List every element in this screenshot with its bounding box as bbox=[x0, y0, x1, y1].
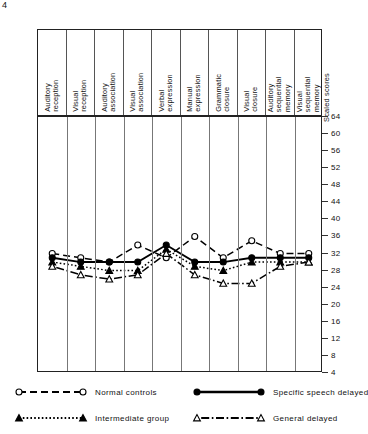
y-axis-tick bbox=[322, 235, 328, 236]
legend-marker bbox=[194, 389, 200, 395]
y-axis-tick bbox=[322, 355, 328, 356]
gridline-vertical bbox=[266, 117, 267, 371]
gridline-vertical bbox=[95, 117, 96, 371]
y-axis-tick bbox=[322, 270, 328, 271]
data-point-marker bbox=[106, 259, 112, 265]
y-axis-tick-label: 48 bbox=[331, 180, 341, 189]
y-axis-tick-label: 16 bbox=[331, 316, 341, 325]
category-label: Auditoryreception bbox=[43, 80, 60, 112]
corner-mark: 4 bbox=[2, 0, 7, 10]
data-point-marker bbox=[106, 267, 113, 273]
legend-swatch bbox=[12, 386, 90, 398]
legend-item[interactable]: Specific speech delayed bbox=[190, 386, 368, 398]
y-axis-tick bbox=[322, 253, 328, 254]
y-axis-tick-label: 56 bbox=[331, 146, 341, 155]
category-label: Visualassociation bbox=[129, 73, 146, 112]
y-axis-tick-label: 64 bbox=[331, 112, 341, 121]
data-point-marker bbox=[220, 267, 227, 273]
category-header-cell: Auditoryreception bbox=[38, 30, 67, 115]
category-label: Visualsequentialmemory bbox=[296, 76, 321, 112]
category-label: Visualreception bbox=[72, 80, 89, 112]
y-axis-tick-label: 52 bbox=[331, 163, 341, 172]
gridline-vertical bbox=[67, 117, 68, 371]
category-header-cell: Verbalexpression bbox=[152, 30, 181, 115]
gridline-vertical bbox=[238, 117, 239, 371]
y-axis-tick-label: 36 bbox=[331, 231, 341, 240]
gridline-vertical bbox=[181, 117, 182, 371]
legend-item[interactable]: Normal controls bbox=[12, 386, 157, 398]
y-axis-tick-label: 32 bbox=[331, 248, 341, 257]
category-label: Manualexpression bbox=[186, 74, 203, 112]
y-axis-tick bbox=[322, 201, 328, 202]
y-axis-title: Scaled scores bbox=[322, 73, 331, 122]
legend-item[interactable]: General delayed bbox=[190, 412, 338, 424]
gridline-vertical bbox=[152, 117, 153, 371]
category-header-cell: Grammaticclosure bbox=[209, 30, 238, 115]
legend-marker bbox=[258, 389, 264, 395]
legend-item[interactable]: Intermediate group bbox=[12, 412, 169, 424]
y-axis-tick-label: 4 bbox=[331, 368, 336, 377]
category-header-cell: Visualclosure bbox=[238, 30, 267, 115]
category-label: Auditoryassociation bbox=[100, 73, 117, 112]
data-point-marker bbox=[220, 259, 226, 265]
legend-label: Specific speech delayed bbox=[273, 388, 368, 397]
category-header-cell: Auditoryassociation bbox=[95, 30, 124, 115]
y-axis-tick-label: 8 bbox=[331, 350, 336, 359]
category-header-cell: Manualexpression bbox=[181, 30, 210, 115]
y-axis-tick bbox=[322, 167, 328, 168]
category-label: Verbalexpression bbox=[157, 74, 174, 112]
data-point-marker bbox=[77, 271, 84, 277]
category-header-cell: Visualsequentialmemory bbox=[295, 30, 324, 115]
legend-marker bbox=[16, 389, 22, 395]
y-axis-tick bbox=[322, 338, 328, 339]
category-label: Visualclosure bbox=[243, 87, 260, 112]
category-header-table: AuditoryreceptionVisualreceptionAuditory… bbox=[37, 29, 322, 116]
y-axis-tick-label: 24 bbox=[331, 282, 341, 291]
y-axis-tick bbox=[322, 150, 328, 151]
data-point-marker bbox=[135, 242, 141, 248]
chart-legend: Normal controlsSpecific speech delayedIn… bbox=[0, 382, 361, 434]
category-label: Grammaticclosure bbox=[214, 74, 231, 112]
plot-area bbox=[37, 116, 322, 372]
category-header-cell: Visualassociation bbox=[124, 30, 153, 115]
legend-swatch bbox=[190, 386, 268, 398]
y-axis-tick-label: 44 bbox=[331, 197, 341, 206]
data-point-marker bbox=[135, 259, 141, 265]
y-axis-tick bbox=[322, 184, 328, 185]
data-point-marker bbox=[192, 233, 198, 239]
legend-label: Intermediate group bbox=[95, 414, 169, 423]
y-axis-tick-label: 40 bbox=[331, 214, 341, 223]
category-label: Auditorysequentialmemory bbox=[267, 76, 292, 112]
y-axis-tick-label: 12 bbox=[331, 333, 341, 342]
y-axis: 646056524844403632282420161284 bbox=[322, 116, 361, 373]
legend-marker bbox=[194, 415, 201, 421]
legend-swatch bbox=[12, 412, 90, 424]
gridline-vertical bbox=[295, 117, 296, 371]
data-point-marker bbox=[249, 238, 255, 244]
gridline-vertical bbox=[124, 117, 125, 371]
y-axis-tick bbox=[322, 218, 328, 219]
legend-marker bbox=[16, 415, 23, 421]
y-axis-tick bbox=[322, 321, 328, 322]
legend-label: General delayed bbox=[273, 414, 338, 423]
legend-label: Normal controls bbox=[95, 388, 157, 397]
y-axis-tick-label: 28 bbox=[331, 265, 341, 274]
y-axis-tick-label: 20 bbox=[331, 299, 341, 308]
gridline-vertical bbox=[209, 117, 210, 371]
category-header-cell: Auditorysequentialmemory bbox=[266, 30, 295, 115]
y-axis-tick bbox=[322, 116, 328, 117]
y-axis-tick bbox=[322, 133, 328, 134]
y-axis-tick bbox=[322, 287, 328, 288]
y-axis-tick-label: 60 bbox=[331, 129, 341, 138]
legend-marker bbox=[80, 389, 86, 395]
category-header-cell: Visualreception bbox=[67, 30, 96, 115]
legend-swatch bbox=[190, 412, 268, 424]
y-axis-tick bbox=[322, 304, 328, 305]
y-axis-tick bbox=[322, 372, 328, 373]
legend-marker bbox=[258, 415, 265, 421]
